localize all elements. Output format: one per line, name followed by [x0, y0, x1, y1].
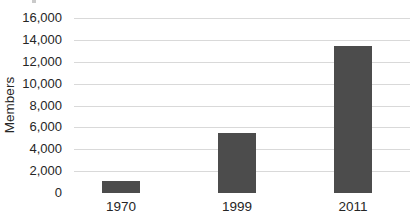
crop-artifact [32, 0, 36, 3]
y-tick-label: 14,000 [0, 33, 62, 47]
bar-1999 [218, 133, 256, 193]
x-category-label: 2011 [321, 199, 385, 214]
y-tick-label: 12,000 [0, 55, 62, 69]
x-category-label: 1999 [205, 199, 269, 214]
y-tick-label: 10,000 [0, 77, 62, 91]
x-category-label: 1970 [89, 199, 153, 214]
bar-1970 [102, 181, 140, 193]
y-tick-label: 4,000 [0, 142, 62, 156]
bar-2011 [334, 46, 372, 193]
gridline [74, 40, 410, 41]
y-tick-label: 6,000 [0, 120, 62, 134]
y-tick-label: 16,000 [0, 11, 62, 25]
gridline [74, 18, 410, 19]
bar-chart-figure: Members 02,0004,0006,0008,00010,00012,00… [0, 0, 415, 222]
y-tick-label: 2,000 [0, 164, 62, 178]
y-tick-label: 0 [0, 186, 62, 200]
y-tick-label: 8,000 [0, 99, 62, 113]
